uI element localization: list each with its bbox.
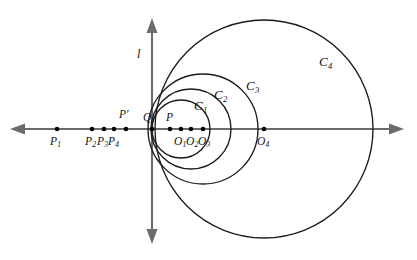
point-dot-p4 xyxy=(112,127,117,132)
point-label-p1: P1 xyxy=(50,136,61,148)
point-label-p: P xyxy=(166,112,173,124)
point-dot-p3 xyxy=(102,127,107,132)
figure-canvas xyxy=(0,0,417,260)
point-dot-o4 xyxy=(262,127,267,132)
vertical-axis-arrow-bottom xyxy=(147,229,158,244)
point-label-o4: O4 xyxy=(257,136,269,148)
circle-label-c1: C1 xyxy=(194,99,207,112)
point-label-p2: P2 xyxy=(85,136,96,148)
point-dot-o2 xyxy=(189,127,194,132)
point-dot-q xyxy=(150,127,155,132)
point-label-o2: O2 xyxy=(186,136,198,148)
point-label-pprime: P′ xyxy=(119,109,129,121)
vertical-axis-label: l xyxy=(137,48,140,61)
point-label-o1: O1 xyxy=(174,136,186,148)
axes-group xyxy=(10,18,404,244)
point-dot-p2 xyxy=(90,127,95,132)
circle-label-c4: C4 xyxy=(319,55,332,68)
point-label-o3: O3 xyxy=(198,136,210,148)
horizontal-axis-arrow-right xyxy=(389,124,404,135)
point-dot-pprime xyxy=(124,127,129,132)
point-label-p4: P4 xyxy=(108,136,119,148)
point-dot-o1 xyxy=(179,127,184,132)
point-label-p3: P3 xyxy=(97,136,108,148)
point-label-q: Q xyxy=(143,112,151,124)
vertical-axis-arrow-top xyxy=(147,18,158,33)
point-dot-p xyxy=(168,127,173,132)
geometry-figure: P1P2P3P4P′QPO1O2O3O4C1C2C3C4l xyxy=(0,0,417,260)
point-dot-p1 xyxy=(55,127,60,132)
horizontal-axis-arrow-left xyxy=(10,124,25,135)
point-dot-o3 xyxy=(201,127,206,132)
circle-label-c3: C3 xyxy=(246,79,259,92)
circle-label-c2: C2 xyxy=(214,88,227,101)
